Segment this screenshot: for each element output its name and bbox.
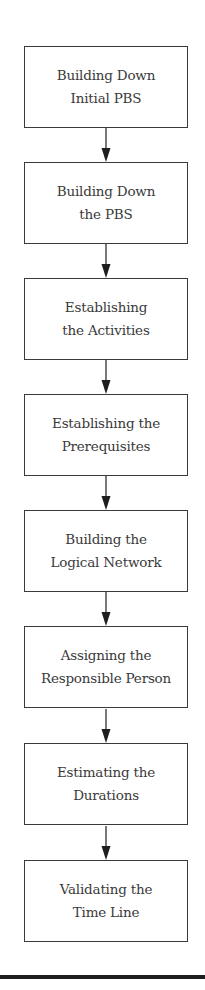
arrow-down-icon bbox=[100, 592, 112, 626]
step-label-line1: Estimating the bbox=[57, 761, 155, 784]
step-label-line2: Logical Network bbox=[51, 551, 162, 574]
step-label-line2: Initial PBS bbox=[71, 87, 142, 110]
arrow-down-icon bbox=[100, 244, 112, 278]
step-label-line1: Establishing the bbox=[52, 412, 160, 435]
step-box-validating-the-time-line: Validating the Time Line bbox=[24, 860, 188, 942]
step-label-line1: Building Down bbox=[57, 180, 155, 203]
step-label-line2: the PBS bbox=[79, 203, 132, 226]
step-label-line1: Establishing bbox=[65, 296, 147, 319]
arrow-down-icon bbox=[100, 128, 112, 162]
arrow-down-icon bbox=[100, 826, 112, 860]
step-box-establishing-the-activities: Establishing the Activities bbox=[24, 278, 188, 360]
arrow-down-icon bbox=[100, 709, 112, 743]
step-label-line2: the Activities bbox=[62, 319, 149, 342]
step-box-assigning-the-responsible-person: Assigning the Responsible Person bbox=[24, 626, 188, 708]
step-box-building-down-initial-pbs: Building Down Initial PBS bbox=[24, 46, 188, 128]
step-box-building-the-logical-network: Building the Logical Network bbox=[24, 510, 188, 592]
step-label-line1: Validating the bbox=[60, 878, 153, 901]
step-label-line2: Prerequisites bbox=[62, 435, 151, 458]
arrow-down-icon bbox=[100, 476, 112, 510]
step-label-line2: Durations bbox=[73, 784, 139, 807]
step-box-establishing-the-prerequisites: Establishing the Prerequisites bbox=[24, 394, 188, 476]
step-box-building-down-the-pbs: Building Down the PBS bbox=[24, 162, 188, 244]
bottom-divider-rule bbox=[0, 975, 205, 979]
step-label-line1: Building Down bbox=[57, 64, 155, 87]
step-label-line1: Assigning the bbox=[61, 644, 152, 667]
step-label-line1: Building the bbox=[65, 528, 147, 551]
step-box-estimating-the-durations: Estimating the Durations bbox=[24, 743, 188, 825]
step-label-line2: Time Line bbox=[73, 901, 140, 924]
step-label-line2: Responsible Person bbox=[41, 667, 171, 690]
arrow-down-icon bbox=[100, 360, 112, 394]
